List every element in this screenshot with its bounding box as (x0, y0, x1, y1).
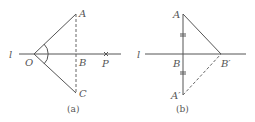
label-l-b: l (137, 49, 140, 60)
label-B-prime: B′ (220, 58, 231, 69)
diagram-a: l O A B C P (a) (9, 8, 121, 114)
label-l-a: l (9, 49, 12, 60)
segment-OA (34, 14, 76, 54)
label-B-b: B (172, 58, 180, 69)
geometry-figure: l O A B C P (a) l A B A′ B′ (b) (0, 0, 255, 122)
label-C: C (79, 88, 87, 99)
dashed-segment-A-prime-B-prime (183, 54, 221, 95)
label-P: P (101, 58, 109, 69)
label-B-a: B (78, 57, 86, 68)
label-A-prime: A′ (170, 90, 181, 101)
caption-b: (b) (176, 104, 189, 114)
diagram-b: l A B A′ B′ (b) (137, 9, 246, 114)
caption-a: (a) (67, 104, 79, 114)
label-A-b: A (172, 9, 180, 20)
label-O: O (25, 57, 33, 68)
segment-AB-prime (183, 14, 221, 54)
segment-OC (34, 54, 76, 93)
label-A-a: A (78, 8, 86, 19)
